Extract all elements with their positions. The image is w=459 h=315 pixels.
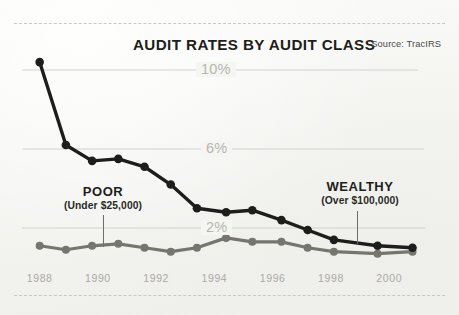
x-axis-tick-label-1994: 1994 [202,272,228,284]
wealthy-leader-line [357,211,358,244]
data-point-wealthy-1 [62,141,71,150]
annotation-wealthy-subtitle: (Over $100,000) [294,194,426,207]
data-point-poor-7 [222,234,230,242]
y-axis-tick-label-10pct: 10% [196,62,236,77]
annotation-wealthy-title: WEALTHY [294,180,426,194]
data-point-poor-3 [114,240,122,248]
data-point-poor-1 [62,246,70,254]
data-point-poor-10 [304,244,312,252]
data-point-wealthy-0 [35,58,44,67]
data-point-poor-5 [167,248,175,256]
data-point-poor-8 [248,238,256,246]
x-axis-tick-label-1998: 1998 [318,272,344,284]
annotation-wealthy: WEALTHY (Over $100,000) [294,180,426,207]
data-point-wealthy-5 [166,180,175,189]
y-axis-tick-label-2pct: 2% [201,220,232,235]
data-point-wealthy-13 [408,243,417,252]
x-axis-tick-label-1990: 1990 [85,272,111,284]
data-point-wealthy-7 [222,208,231,217]
data-point-poor-9 [277,238,285,246]
data-point-wealthy-6 [193,204,202,213]
annotation-poor-title: POOR [43,185,163,199]
data-point-wealthy-2 [88,157,97,166]
data-point-wealthy-9 [277,216,286,225]
y-axis-tick-label-6pct: 6% [201,141,232,156]
x-axis-tick-label-1996: 1996 [260,272,286,284]
data-point-poor-11 [330,248,338,256]
data-point-wealthy-11 [330,236,339,245]
data-point-wealthy-8 [248,206,257,215]
chart-screenshot: AUDIT RATES BY AUDIT CLASS Source: TracI… [0,0,459,315]
data-point-poor-4 [141,244,149,252]
annotation-poor: POOR (Under $25,000) [43,185,163,212]
x-axis-tick-label-1992: 1992 [143,272,169,284]
poor-leader-line [103,215,104,247]
x-axis-tick-label-1988: 1988 [27,272,53,284]
data-point-poor-6 [193,244,201,252]
data-point-poor-0 [36,242,44,250]
data-point-wealthy-10 [303,226,312,235]
data-point-wealthy-3 [114,155,123,164]
data-point-poor-12 [374,250,382,258]
data-point-wealthy-4 [140,162,149,171]
annotation-poor-subtitle: (Under $25,000) [43,199,163,212]
data-point-wealthy-12 [373,241,382,250]
line-chart-canvas [0,0,459,315]
data-point-poor-2 [88,242,96,250]
x-axis-tick-label-2000: 2000 [376,272,402,284]
